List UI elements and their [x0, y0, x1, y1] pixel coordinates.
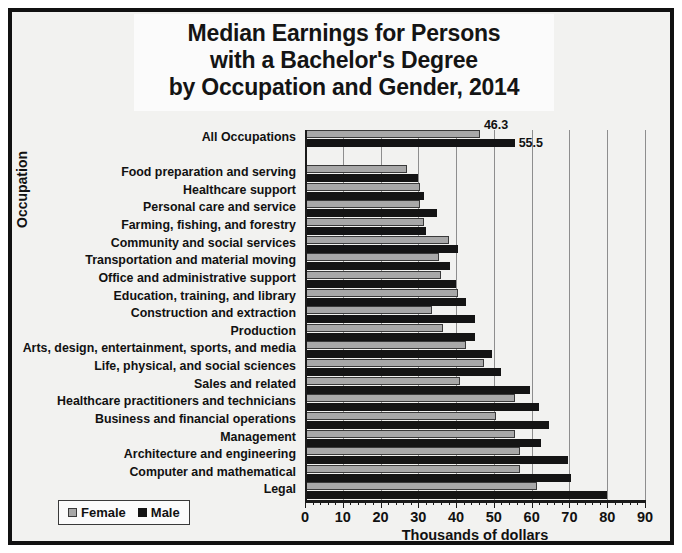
bar-group [305, 130, 645, 148]
x-axis-minor-tick [562, 500, 563, 505]
bar-female [305, 394, 515, 402]
bar-male [305, 315, 475, 323]
bar-female [305, 183, 420, 191]
x-axis-minor-tick [335, 500, 336, 505]
bar-male [305, 491, 607, 499]
bar-group [305, 482, 645, 500]
x-axis-minor-tick [600, 500, 601, 505]
bar-female [305, 236, 449, 244]
bar-group [305, 359, 645, 377]
bar-male [305, 280, 456, 288]
bar-female [305, 482, 537, 490]
bar-group [305, 412, 645, 430]
x-axis-tick [381, 500, 382, 508]
bar-female [305, 359, 484, 367]
bar-group [305, 236, 645, 254]
bar-female [305, 218, 424, 226]
y-axis-tick-label: Arts, design, entertainment, sports, and… [23, 342, 296, 355]
chart-title-line-1: Median Earnings for Persons [142, 20, 546, 47]
bar-male [305, 245, 458, 253]
x-axis-minor-tick [509, 500, 510, 505]
x-axis-tick [569, 500, 570, 508]
x-axis-minor-tick [585, 500, 586, 505]
x-axis-minor-tick [486, 500, 487, 505]
bar-female [305, 377, 460, 385]
y-axis-tick-label: Architecture and engineering [124, 448, 296, 461]
x-axis-minor-tick [396, 500, 397, 505]
y-axis-tick-label: Production [231, 325, 296, 338]
legend-item-male: Male [138, 505, 180, 520]
y-axis-tick-label: Management [220, 431, 296, 444]
bar-group [305, 377, 645, 395]
bar-group [305, 394, 645, 412]
x-axis-tick-label: 50 [474, 509, 514, 525]
bar-female [305, 430, 515, 438]
y-axis-tick-label: All Occupations [202, 131, 296, 144]
bar-female [305, 447, 520, 455]
x-axis-tick [532, 500, 533, 508]
x-axis-minor-tick [547, 500, 548, 505]
y-axis-tick-label: Healthcare support [183, 184, 296, 197]
bar-group [305, 324, 645, 342]
x-axis-minor-tick [403, 500, 404, 505]
bar-group [305, 218, 645, 236]
chart-legend: Female Male [58, 500, 190, 525]
y-axis-tick-labels: All OccupationsFood preparation and serv… [30, 130, 300, 500]
legend-label-male: Male [151, 505, 180, 520]
x-axis-minor-tick [524, 500, 525, 505]
bar-group [305, 341, 645, 359]
bar-value-label: 46.3 [484, 118, 508, 132]
chart-title-line-3: by Occupation and Gender, 2014 [142, 74, 546, 101]
bar-female [305, 165, 407, 173]
bar-female [305, 465, 520, 473]
x-axis-minor-tick [622, 500, 623, 505]
x-axis-minor-tick [630, 500, 631, 505]
bar-group [305, 306, 645, 324]
bar-value-label: 55.5 [519, 136, 543, 150]
y-axis-tick-label: Community and social services [111, 237, 296, 250]
bar-male [305, 439, 541, 447]
x-axis-title: Thousands of dollars [305, 527, 645, 543]
male-swatch-icon [138, 508, 147, 517]
x-axis-minor-tick [517, 500, 518, 505]
x-axis-tick-label: 40 [436, 509, 476, 525]
x-axis-minor-tick [501, 500, 502, 505]
bar-female [305, 412, 496, 420]
bar-female [305, 200, 420, 208]
x-axis-tick-label: 90 [625, 509, 665, 525]
y-axis-tick-label: Farming, fishing, and forestry [121, 219, 296, 232]
legend-item-female: Female [68, 505, 126, 520]
x-axis-minor-tick [577, 500, 578, 505]
bar-male [305, 209, 437, 217]
bar-male [305, 421, 549, 429]
x-axis-minor-tick [350, 500, 351, 505]
y-axis-tick-label: Personal care and service [143, 201, 296, 214]
x-axis-tick-label: 60 [512, 509, 552, 525]
x-axis-tick [418, 500, 419, 508]
x-axis-minor-tick [539, 500, 540, 505]
x-axis-line [305, 500, 645, 503]
y-axis-tick-label: Transportation and material moving [85, 254, 296, 267]
x-axis-minor-tick [373, 500, 374, 505]
y-axis-tick-label: Office and administrative support [98, 272, 296, 285]
bar-female [305, 130, 480, 138]
x-axis-minor-tick [592, 500, 593, 505]
bar-group [305, 183, 645, 201]
bar-female [305, 341, 466, 349]
bar-female [305, 253, 439, 261]
bar-male [305, 333, 475, 341]
bar-male [305, 368, 501, 376]
x-axis-tick-label: 80 [587, 509, 627, 525]
x-axis-minor-tick [637, 500, 638, 505]
bar-group [305, 430, 645, 448]
bar-male [305, 139, 515, 147]
y-axis-tick-label: Legal [264, 483, 296, 496]
x-axis-minor-tick [411, 500, 412, 505]
y-axis-tick-label: Life, physical, and social sciences [94, 360, 296, 373]
x-axis-tick-label: 20 [361, 509, 401, 525]
x-axis-tick-label: 30 [398, 509, 438, 525]
x-axis-minor-tick [464, 500, 465, 505]
bar-male [305, 386, 530, 394]
x-axis-minor-tick [449, 500, 450, 505]
x-axis-tick [305, 500, 306, 508]
